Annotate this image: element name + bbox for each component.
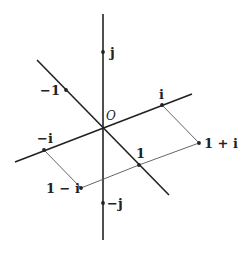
guide-1pi-to-1 <box>139 143 199 165</box>
point-one-plus-i <box>197 141 201 145</box>
label-i: i <box>159 87 164 102</box>
diagram-svg: O j −j −1 1 i −i 1 + i 1 − i <box>0 0 243 253</box>
label-neg-i: −i <box>37 131 53 146</box>
point-j <box>101 50 105 54</box>
label-neg-j: −j <box>107 196 123 211</box>
complex-plane-diagram: O j −j −1 1 i −i 1 + i 1 − i <box>0 0 243 253</box>
label-one: 1 <box>136 146 145 161</box>
point-neg-i <box>42 148 46 152</box>
guide-1-to-1mi <box>81 165 139 188</box>
label-neg-1: −1 <box>40 83 60 98</box>
label-j: j <box>109 45 115 60</box>
guide-i-to-1pi <box>162 105 199 143</box>
origin-label: O <box>106 109 116 123</box>
point-neg-1 <box>64 88 68 92</box>
point-neg-j <box>101 201 105 205</box>
label-one-plus-i: 1 + i <box>204 136 238 151</box>
point-one <box>137 163 141 167</box>
point-i <box>160 103 164 107</box>
label-one-minus-i: 1 − i <box>46 181 80 196</box>
